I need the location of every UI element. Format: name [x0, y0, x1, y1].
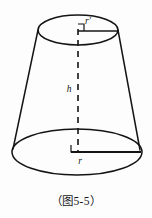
bottom-radius-label: r	[78, 156, 82, 166]
top-radius-label: r′	[85, 16, 92, 26]
figure-caption: （图5-5）	[0, 192, 152, 208]
frustum-diagram: r′ h r	[0, 0, 152, 218]
right-slant-edge	[118, 30, 140, 150]
figure-container: r′ h r （图5-5）	[0, 0, 152, 218]
left-slant-edge	[13, 30, 38, 149]
height-label: h	[67, 84, 72, 94]
bottom-right-angle-marker	[71, 145, 78, 152]
top-right-angle-marker	[78, 24, 84, 31]
